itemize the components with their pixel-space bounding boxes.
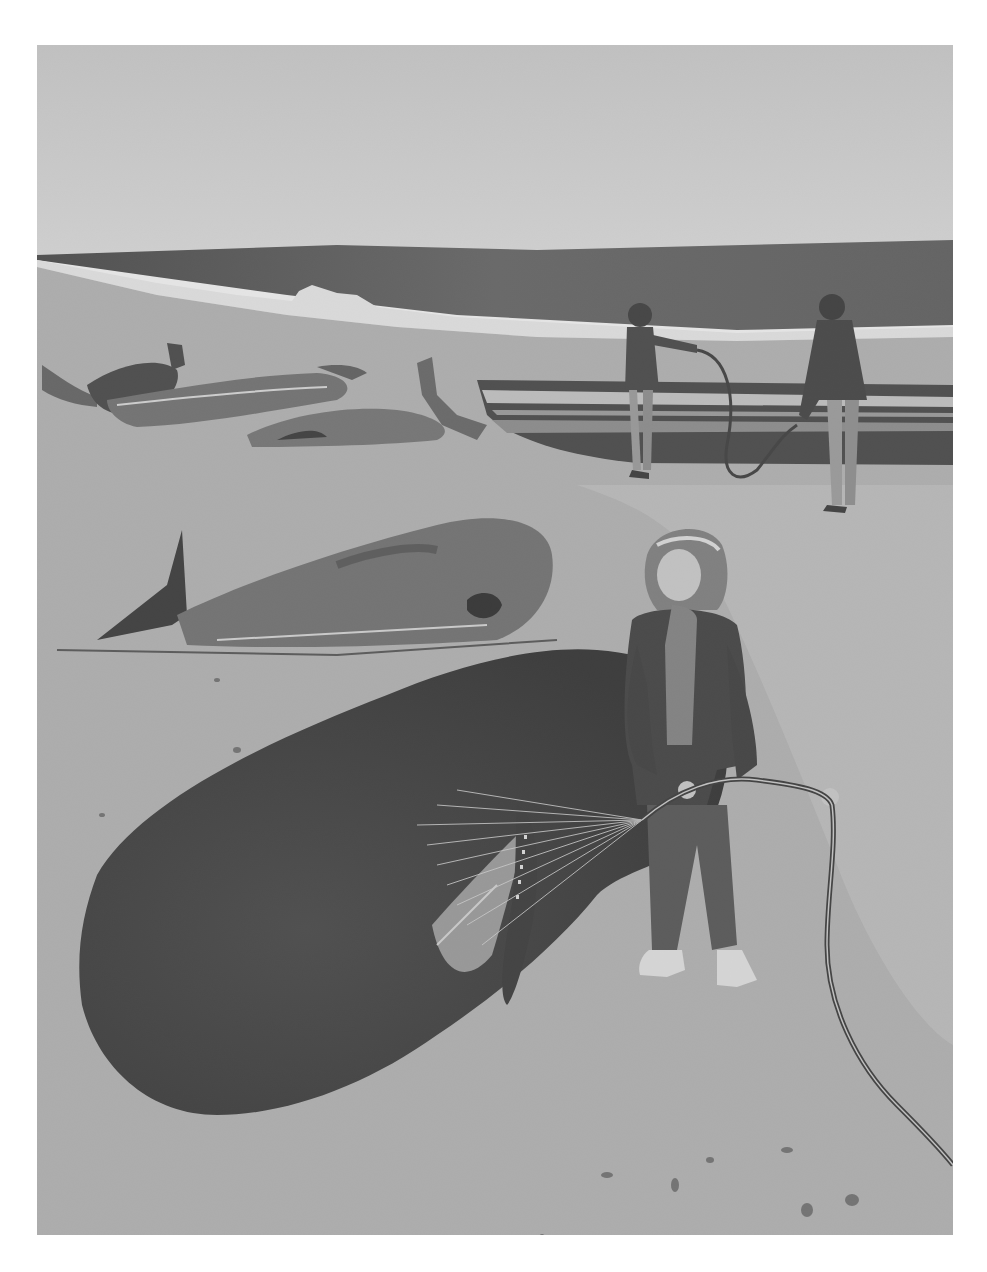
illustration-frame: Grayscale watercolor illustration of str… <box>37 45 953 1235</box>
illustration <box>37 45 953 1235</box>
paper-texture <box>37 45 953 1235</box>
